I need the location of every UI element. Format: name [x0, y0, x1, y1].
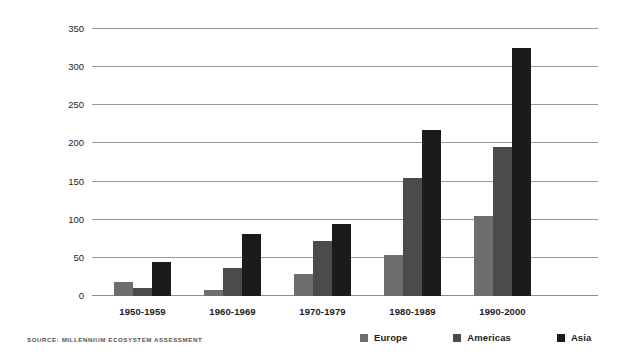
legend-swatch-icon-americas [453, 334, 461, 342]
legend-swatch-icon-asia [557, 334, 565, 342]
bar-americas-1950-1959 [133, 288, 152, 296]
legend-item-americas[interactable]: Americas [453, 332, 511, 343]
y-tick-label-0: 0 [79, 290, 84, 301]
bar-europe-1990-2000 [474, 216, 493, 296]
bar-europe-1950-1959 [114, 282, 133, 296]
bar-americas-1980-1989 [403, 178, 422, 296]
legend-swatch-icon-europe [360, 334, 368, 342]
chart-legend: EuropeAmericasAsia [360, 332, 591, 343]
bar-europe-1970-1979 [294, 274, 313, 296]
bar-europe-1980-1989 [384, 255, 403, 296]
x-axis-label-1990-2000: 1990-2000 [448, 306, 558, 317]
legend-label-asia: Asia [571, 332, 591, 343]
bar-asia-1950-1959 [152, 262, 171, 296]
y-tick-label-100: 100 [68, 213, 84, 224]
y-tick-label-350: 350 [68, 23, 84, 34]
plot-area: 050100150200250300350 [92, 29, 598, 296]
bar-asia-1990-2000 [512, 48, 531, 296]
bar-europe-1960-1969 [204, 290, 223, 296]
y-tick-label-300: 300 [68, 61, 84, 72]
source-note: SOURCE: MILLENNIUM ECOSYSTEM ASSESSMENT [27, 336, 202, 343]
flood-bar-chart: Number of major floods 05010015020025030… [0, 0, 622, 362]
legend-label-americas: Americas [467, 332, 511, 343]
bar-americas-1970-1979 [313, 241, 332, 296]
bar-asia-1960-1969 [242, 234, 261, 296]
bar-americas-1960-1969 [223, 268, 242, 296]
legend-label-europe: Europe [374, 332, 407, 343]
y-tick-label-250: 250 [68, 99, 84, 110]
bar-asia-1980-1989 [422, 130, 441, 296]
bar-americas-1990-2000 [493, 147, 512, 296]
legend-item-asia[interactable]: Asia [557, 332, 591, 343]
gridline-350: 350 [92, 28, 598, 29]
y-tick-label-200: 200 [68, 137, 84, 148]
y-tick-label-150: 150 [68, 175, 84, 186]
legend-item-europe[interactable]: Europe [360, 332, 407, 343]
bar-asia-1970-1979 [332, 224, 351, 296]
y-tick-label-50: 50 [73, 251, 84, 262]
